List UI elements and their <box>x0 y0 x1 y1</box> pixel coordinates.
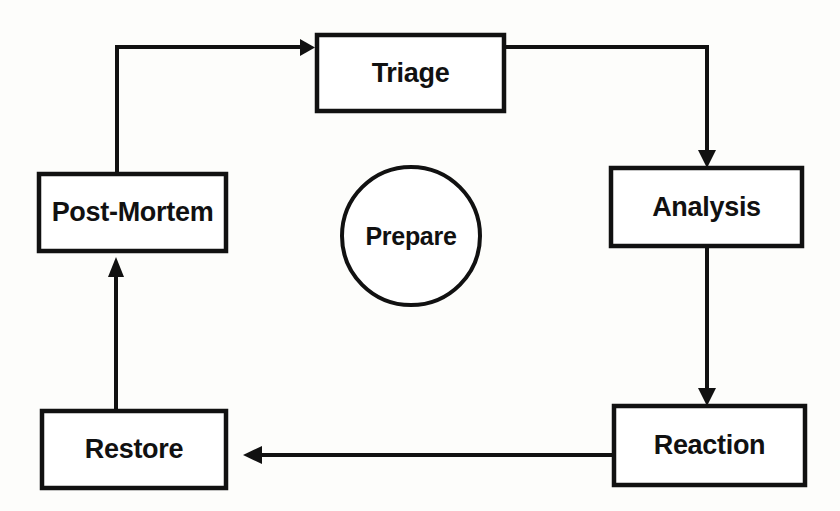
arrowhead-icon <box>698 388 716 406</box>
arrowhead-icon <box>108 257 124 277</box>
diagram-graphics <box>0 0 840 511</box>
arrowhead-icon <box>243 446 262 464</box>
node-post-mortem[interactable] <box>39 174 226 251</box>
edge-post-mortem-to-triage <box>117 39 315 174</box>
diagram-canvas: Triage Analysis Reaction Restore Post-Mo… <box>0 0 840 511</box>
node-triage[interactable] <box>317 35 504 111</box>
node-restore[interactable] <box>42 411 226 488</box>
edge-triage-to-analysis <box>504 47 716 168</box>
arrowhead-icon <box>300 39 315 56</box>
node-prepare[interactable] <box>342 167 480 305</box>
edge-analysis-to-reaction <box>698 246 716 406</box>
node-analysis[interactable] <box>611 168 802 246</box>
edge-reaction-to-restore <box>243 446 613 464</box>
arrowhead-icon <box>698 150 716 168</box>
node-reaction[interactable] <box>614 406 805 485</box>
edge-restore-to-post-mortem <box>108 257 124 411</box>
